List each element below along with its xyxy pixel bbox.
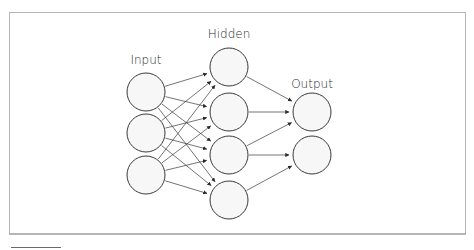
hidden-node-4 — [210, 181, 248, 219]
output-node-2 — [293, 136, 331, 174]
edge-input1-hidden4 — [158, 108, 215, 182]
hidden-node-1 — [210, 48, 248, 86]
edge-input3-hidden3 — [165, 160, 206, 170]
edge-input1-hidden2 — [165, 97, 206, 107]
edge-hidden3-output1 — [247, 123, 292, 146]
edge-input2-hidden3 — [165, 138, 206, 149]
edge-input3-hidden4 — [165, 181, 207, 194]
layer-label-input: Input — [130, 53, 161, 67]
hidden-node-2 — [210, 93, 248, 131]
input-node-3 — [127, 156, 165, 194]
output-node-1 — [293, 93, 331, 131]
neural-network-diagram: Input Hidden Output — [0, 0, 474, 250]
edge-input3-hidden1 — [158, 85, 215, 159]
edge-input2-hidden1 — [162, 81, 211, 120]
nodes-group — [127, 48, 331, 219]
layer-label-hidden: Hidden — [208, 27, 251, 41]
edge-hidden4-output2 — [247, 166, 292, 191]
edges-group — [158, 74, 292, 194]
input-node-1 — [127, 73, 165, 111]
edge-hidden1-output1 — [247, 77, 292, 102]
input-node-2 — [127, 114, 165, 152]
edge-input1-hidden1 — [165, 74, 207, 87]
hidden-node-3 — [210, 136, 248, 174]
layer-label-output: Output — [291, 77, 333, 91]
